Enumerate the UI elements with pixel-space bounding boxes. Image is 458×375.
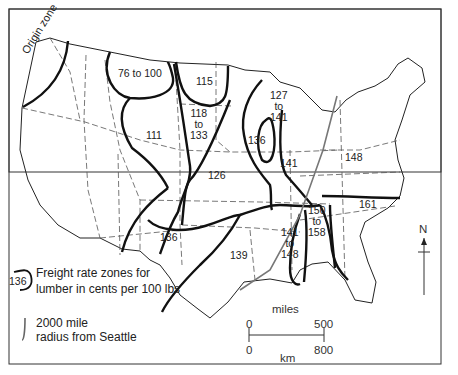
zone-label-136-north: 136 [248,135,266,146]
zone-label-136-south: 136 [160,232,178,243]
zone-label-139: 139 [230,250,248,261]
zone-label-161: 161 [359,199,377,210]
legend-zone-sample: 136 [9,276,27,287]
zone-label-118-133: 118to133 [190,108,208,141]
legend-zone-text-line2: lumber in cents per 100 lbs [36,282,180,296]
scale-km-label: km [280,352,295,364]
scale-bar [249,328,324,342]
zone-label-111: 111 [146,130,162,141]
zone-label-126: 126 [208,170,226,181]
scale-km-start: 0 [246,344,252,356]
zone-label-141-148: 141to148 [281,227,299,260]
zone-label-115: 115 [196,76,213,87]
north-label: N [419,223,427,235]
legend-radius-text-line2: radius from Seattle [36,330,137,344]
legend-zone-text-line1: Freight rate zones for [36,266,150,280]
zone-label-127-141: 127to141 [270,90,288,123]
map-frame [9,9,441,364]
north-arrow-icon [418,238,430,295]
scale-miles-start: 0 [246,318,252,330]
zone-label-141: 141 [280,158,298,169]
zone-label-150-158: 150to158 [308,205,326,238]
radius-line-seattle [240,96,337,290]
zone-label-76-100: 76 to 100 [118,68,162,79]
legend-radius-text-line1: 2000 mile [36,316,88,330]
scale-miles-end: 500 [314,318,333,330]
zone-label-148: 148 [345,152,363,163]
scale-km-end: 800 [314,344,333,356]
legend-radius-line-icon [22,318,25,340]
scale-miles-label: miles [272,303,299,315]
